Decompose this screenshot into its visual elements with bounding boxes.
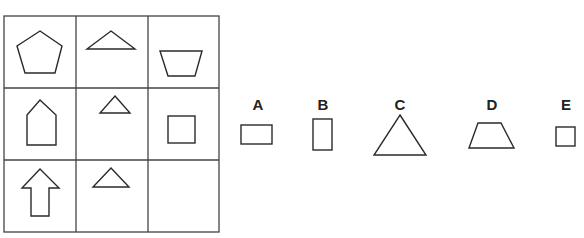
option-a-shape — [241, 125, 272, 144]
option-c-label[interactable]: C — [390, 96, 410, 113]
option-a-label[interactable]: A — [248, 96, 268, 113]
option-e-shape — [556, 127, 575, 146]
option-c-shape — [374, 115, 426, 155]
puzzle-figure — [0, 0, 584, 238]
option-d-label[interactable]: D — [482, 96, 502, 113]
square-shape — [168, 116, 195, 143]
pentagon-shape — [17, 31, 62, 73]
option-b-label[interactable]: B — [313, 96, 333, 113]
house-shape — [27, 100, 56, 145]
puzzle-stage: A B C D E — [0, 0, 584, 238]
up-arrow-shape — [22, 169, 59, 216]
option-d-shape — [469, 123, 514, 148]
triangle-shape — [93, 168, 129, 187]
option-b-shape — [313, 119, 332, 150]
wide-triangle-shape — [87, 31, 135, 49]
inverted-trapezoid-shape — [160, 51, 202, 76]
small-triangle-shape — [100, 96, 130, 113]
option-e-label[interactable]: E — [556, 96, 576, 113]
